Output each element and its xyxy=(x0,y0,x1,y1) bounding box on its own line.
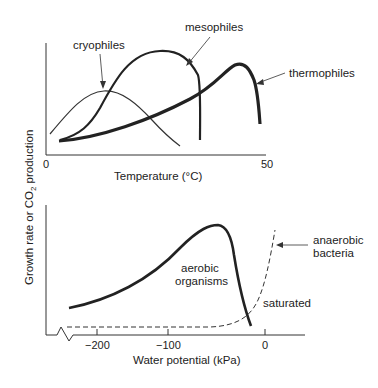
arrowhead-cryophiles xyxy=(100,81,106,89)
bottom-tick-m200: −200 xyxy=(85,339,110,351)
top-x-axis-label: Temperature (°C) xyxy=(114,170,202,182)
bottom-x-axis-label: Water potential (kPa) xyxy=(133,354,241,366)
arrow-mesophiles xyxy=(188,37,210,64)
bottom-chart: −200 −100 0 Water potential (kPa) aerobi… xyxy=(46,205,364,366)
thermophiles-curve xyxy=(59,64,260,141)
arrowhead-anaerobic xyxy=(276,242,283,248)
label-bacteria: bacteria xyxy=(313,247,355,259)
top-chart: 0 50 Temperature (°C) cryophiles mesophi… xyxy=(43,21,355,182)
bottom-tick-0: 0 xyxy=(262,339,268,351)
bottom-tick-m100: −100 xyxy=(156,339,181,351)
label-cryophiles: cryophiles xyxy=(73,39,125,51)
top-tick-0: 0 xyxy=(43,158,49,170)
label-organisms: organisms xyxy=(175,275,228,287)
y-axis-label: Growth rate or CO2 production xyxy=(23,130,38,285)
label-saturated: saturated xyxy=(263,297,311,309)
label-mesophiles: mesophiles xyxy=(185,21,243,33)
label-aerobic: aerobic xyxy=(181,262,219,274)
anaerobic-curve xyxy=(67,230,275,327)
arrowhead-thermophiles xyxy=(256,79,264,85)
top-tick-50: 50 xyxy=(261,158,273,170)
label-anaerobic: anaerobic xyxy=(313,234,364,246)
label-thermophiles: thermophiles xyxy=(289,67,355,79)
figure: Growth rate or CO2 production 0 50 Tempe… xyxy=(0,0,378,388)
